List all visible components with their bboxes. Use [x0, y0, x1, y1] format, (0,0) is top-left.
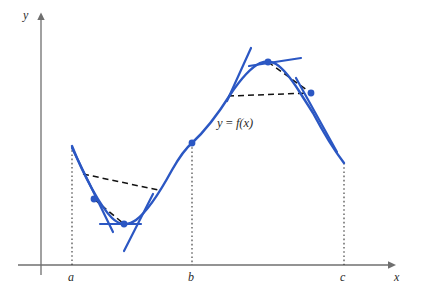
x-tick-label-b: b — [188, 271, 194, 283]
x-axis-arrow-icon — [388, 261, 396, 269]
axes-group — [18, 13, 396, 276]
secant-chords-group — [83, 62, 311, 224]
equation-argument: (x) — [239, 116, 253, 130]
y-axis-label: y — [23, 9, 28, 21]
y-axis-arrow-icon — [37, 13, 44, 21]
x-axis-label: x — [394, 271, 399, 283]
dotted-verticals-group — [72, 143, 344, 265]
tangent-descending-right — [296, 78, 337, 152]
calculus-figure: y x a b c y = f(x) — [0, 0, 421, 293]
function-curve — [72, 62, 344, 224]
point-local-maximum — [265, 59, 272, 66]
tangent-lines-group — [72, 48, 337, 251]
chord-upper-left — [83, 174, 158, 190]
marked-points-group — [91, 59, 315, 228]
point-inflection-at-b — [189, 140, 196, 147]
chord-horizontal-right — [228, 93, 311, 96]
function-curve-group — [72, 62, 344, 224]
x-tick-label-a: a — [68, 271, 74, 283]
x-tick-label-c: c — [340, 271, 345, 283]
point-on-ab-descending — [91, 196, 98, 203]
equation-equals: = — [223, 116, 236, 130]
function-equation-label: y = f(x) — [217, 117, 253, 130]
point-on-bc-descending — [308, 90, 315, 97]
figure-canvas — [0, 0, 421, 293]
point-local-minimum — [121, 221, 128, 228]
